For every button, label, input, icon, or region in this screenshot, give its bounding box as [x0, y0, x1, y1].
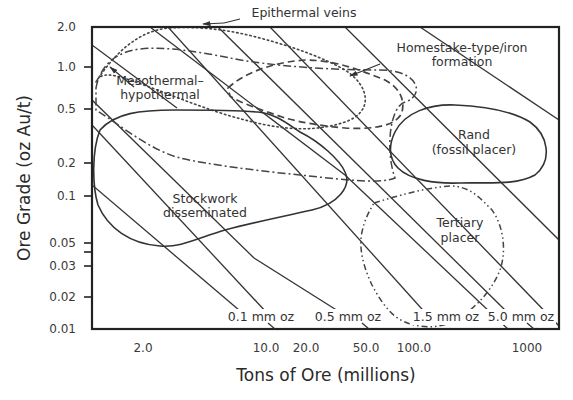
x-axis-title: Tons of Ore (millions): [235, 365, 415, 385]
y-tick-label: 0.5: [57, 102, 76, 116]
label-mesothermal-line2: hypothermal: [120, 87, 200, 102]
label-epithermal-veins: Epithermal veins: [251, 5, 356, 20]
region-homestake-iron-formation: [228, 60, 403, 128]
x-tick-label: 20.0: [293, 341, 320, 355]
y-tick-label: 0.1: [57, 189, 76, 203]
label-isoline-0.5: 0.5 mm oz: [315, 309, 382, 324]
y-tick-label: 0.2: [57, 156, 76, 170]
region-tertiary-placer: [361, 186, 504, 327]
label-mesothermal-line1: Mesothermal–: [116, 73, 204, 88]
arrow-epithermal: [203, 23, 224, 24]
x-axis: 2.0 10.0 20.0 50.0 100.0 1000 Tons of Or…: [133, 341, 542, 385]
y-tick-label: 0.01: [49, 322, 76, 336]
label-isoline-0.1: 0.1 mm oz: [228, 309, 295, 324]
label-rand-line2: (fossil placer): [432, 142, 517, 157]
y-axis: 2.0 1.0 0.5 0.2 0.1 0.05 0.03 0.02 0.01 …: [14, 20, 92, 336]
x-tick-label: 2.0: [133, 341, 152, 355]
label-tertiary-line1: Tertiary: [436, 215, 485, 230]
y-tick-label: 2.0: [57, 20, 76, 34]
y-tick-label: 0.02: [49, 290, 76, 304]
leader-epithermal: [224, 19, 240, 23]
y-tick-label: 0.03: [49, 259, 76, 273]
x-tick-label: 10.0: [253, 341, 280, 355]
label-stockwork-line2: disseminated: [163, 205, 247, 220]
label-rand-line1: Rand: [458, 127, 490, 142]
y-tick-label: 0.05: [49, 236, 76, 250]
label-homestake-line1: Homestake-type/iron: [396, 40, 527, 55]
x-tick-label: 100.0: [397, 341, 431, 355]
label-tertiary-line2: placer: [441, 230, 481, 245]
label-stockwork-line1: Stockwork: [173, 191, 239, 206]
x-tick-label: 1000: [512, 341, 543, 355]
y-tick-label: 1.0: [57, 60, 76, 74]
x-tick-label: 50.0: [353, 341, 380, 355]
label-isoline-5.0: 5.0 mm oz: [488, 309, 555, 324]
y-axis-title: Ore Grade (oz Au/t): [14, 95, 34, 261]
grade-tonnage-chart: 2.0 1.0 0.5 0.2 0.1 0.05 0.03 0.02 0.01 …: [0, 0, 573, 400]
label-isoline-1.5: 1.5 mm oz: [413, 309, 480, 324]
label-homestake-line2: formation: [432, 54, 493, 69]
